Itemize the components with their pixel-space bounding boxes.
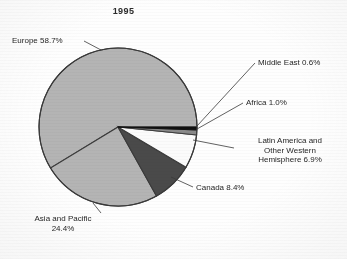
slice-label-asia-line1: Asia and Pacific [35,214,92,223]
leader-line-europe [84,41,101,50]
slice-label-latin-america-line3: Hemisphere 6.9% [258,155,322,164]
leader-line-middle-east [197,63,255,126]
slice-label-latin-america-line2: Other Western [264,146,316,155]
slice-label-asia-and-pacific: Asia and Pacific 24.4% [18,214,108,233]
slice-label-middle-east: Middle East 0.6% [258,58,320,68]
leader-line-asia [93,203,101,213]
leader-line-latin [193,140,234,148]
slice-label-canada: Canada 8.4% [196,183,244,193]
chart-page: 1995 Eur [0,0,347,259]
pie-slices [39,48,197,206]
slice-label-latin-america: Latin America and Other Western Hemisphe… [238,136,342,165]
slice-label-asia-line2: 24.4% [52,224,75,233]
slice-label-europe: Europe 58.7% [12,36,63,46]
slice-label-africa: Africa 1.0% [246,98,287,108]
leader-line-africa [197,103,243,129]
slice-label-latin-america-line1: Latin America and [258,136,322,145]
